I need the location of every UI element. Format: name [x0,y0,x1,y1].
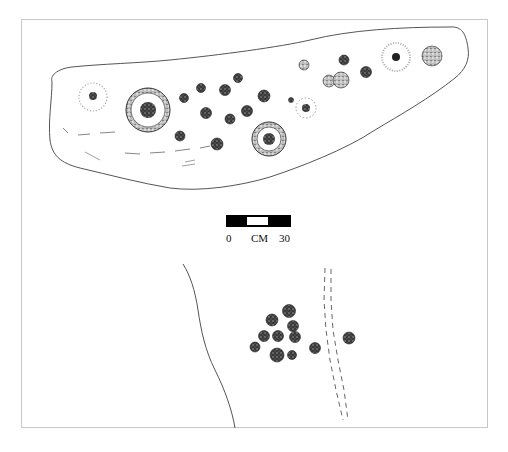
cupule [89,92,97,100]
crack-line [63,128,115,135]
scale-label-unit: CM [251,232,268,244]
lower-cupules [250,305,355,363]
crack-line [85,152,195,166]
rock-art-drawing [0,0,508,452]
scale-label-thirty: 30 [279,232,290,244]
crack-line [324,268,343,420]
crack-line [125,146,210,154]
scale-bar [226,215,291,227]
lower-rock-outline [183,264,235,428]
upper-boulder-outline [49,27,468,189]
scale-label-zero: 0 [226,232,232,244]
crack-line [331,269,348,420]
